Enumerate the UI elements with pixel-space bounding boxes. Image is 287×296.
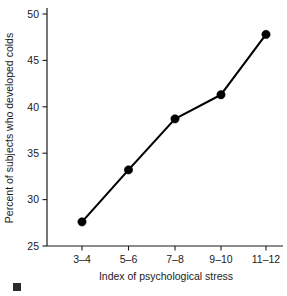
y-tick-label-35: 35 bbox=[27, 147, 39, 159]
data-point-4 bbox=[262, 30, 270, 38]
data-point-2 bbox=[171, 115, 179, 123]
line-chart-canvas: 50 45 40 35 30 25 3–4 5–6 7–8 9–10 11–12… bbox=[0, 0, 287, 296]
plot-background bbox=[47, 8, 283, 246]
x-axis-title: Index of psychological stress bbox=[99, 270, 233, 282]
x-tick-label-1: 5–6 bbox=[120, 253, 138, 265]
data-point-3 bbox=[217, 91, 225, 99]
y-tick-label-45: 45 bbox=[27, 54, 39, 66]
y-tick-label-30: 30 bbox=[27, 193, 39, 205]
x-tick-label-4: 11–12 bbox=[252, 253, 281, 265]
y-tick-label-25: 25 bbox=[27, 240, 39, 252]
data-point-0 bbox=[78, 218, 86, 226]
page-corner-mark bbox=[13, 283, 21, 291]
x-tick-label-3: 9–10 bbox=[209, 253, 233, 265]
x-tick-label-2: 7–8 bbox=[166, 253, 184, 265]
chart-figure: 50 45 40 35 30 25 3–4 5–6 7–8 9–10 11–12… bbox=[0, 0, 287, 296]
y-axis-title: Percent of subjects who developed colds bbox=[3, 33, 15, 223]
y-tick-label-40: 40 bbox=[27, 101, 39, 113]
data-point-1 bbox=[124, 166, 132, 174]
x-tick-label-0: 3–4 bbox=[73, 253, 91, 265]
y-tick-label-50: 50 bbox=[27, 8, 39, 20]
